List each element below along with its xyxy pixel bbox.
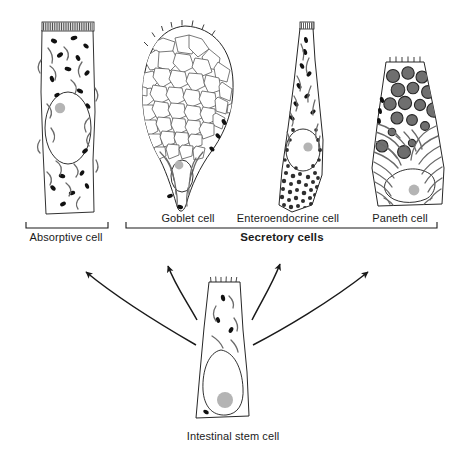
apical-microvilli [300, 22, 314, 29]
arrow-to-enteroendocrine-cell [252, 264, 280, 320]
paneth-cell-drawing [372, 57, 444, 208]
nucleolus [303, 142, 312, 151]
apical-microvilli [390, 57, 420, 63]
intestinal-stem-cell-drawing [196, 277, 249, 419]
enteroendocrine-cell-membrane [279, 28, 323, 212]
absorptive-bracket [26, 222, 108, 228]
label-goblet-cell: Goblet cell [161, 212, 214, 224]
nucleolus [409, 185, 420, 196]
goblet-cell-drawing [136, 20, 233, 211]
microvilli-brush-border [42, 22, 94, 31]
label-secretory-cells: Secretory cells [240, 231, 323, 243]
label-absorptive-cell: Absorptive cell [29, 231, 102, 243]
nucleolus [55, 103, 65, 113]
apical-microvilli [211, 277, 237, 283]
cell-lineage-diagram [0, 0, 467, 454]
absorptive-cell-drawing [38, 22, 99, 214]
arrow-to-paneth-cell [253, 272, 368, 345]
nucleolus [175, 161, 184, 170]
nucleolus [217, 392, 233, 408]
label-intestinal-stem-cell: Intestinal stem cell [187, 430, 279, 442]
arrow-to-absorptive-cell [86, 272, 196, 345]
label-enteroendocrine-cell: Enteroendocrine cell [237, 212, 339, 224]
label-paneth-cell: Paneth cell [372, 212, 428, 224]
arrow-to-goblet-cell [168, 266, 197, 320]
enteroendocrine-cell-drawing [279, 22, 323, 212]
nucleus [286, 129, 320, 171]
